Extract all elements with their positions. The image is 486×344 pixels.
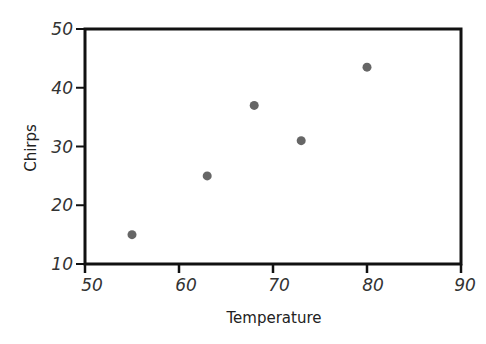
x-tick-labels: 50 60 70 80 90 — [81, 275, 476, 295]
data-point — [128, 230, 137, 239]
data-points — [128, 63, 372, 239]
x-tick-label: 60 — [175, 275, 197, 295]
data-point — [297, 136, 306, 145]
x-tick-label: 80 — [362, 275, 384, 295]
y-tick-label: 10 — [51, 254, 73, 274]
data-point — [203, 171, 212, 180]
x-tick-label: 70 — [268, 275, 290, 295]
x-axis-title: Temperature — [225, 309, 321, 327]
y-tick-label: 30 — [51, 137, 73, 157]
data-point — [250, 101, 259, 110]
scatter-chart: 10 20 30 40 50 50 60 70 80 90 Temperatur… — [0, 0, 486, 344]
y-tick-label: 50 — [51, 19, 73, 39]
y-axis-title: Chirps — [22, 124, 40, 172]
x-tick-label: 50 — [81, 275, 103, 295]
y-tick-label: 40 — [51, 78, 73, 98]
x-tick-label: 90 — [454, 275, 476, 295]
data-point — [363, 63, 372, 72]
y-tick-label: 20 — [51, 195, 73, 215]
plot-frame — [85, 29, 461, 264]
y-tick-labels: 10 20 30 40 50 — [51, 19, 73, 274]
